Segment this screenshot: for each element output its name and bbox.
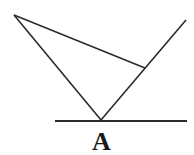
segment-a-p	[14, 15, 101, 120]
segment-a-r	[101, 20, 186, 120]
segment-p-q	[14, 15, 145, 68]
point-label-a: A	[92, 129, 111, 155]
